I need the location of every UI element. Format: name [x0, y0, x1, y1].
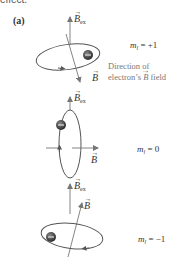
ml-label-minus-1: ml = −1: [138, 234, 165, 245]
annotation-line-2: electron’s B field: [108, 72, 167, 82]
state-ml-0: Bex → B → ml = 0: [46, 87, 160, 178]
svg-text:→: →: [75, 87, 82, 95]
orbit-direction-arrow: [84, 248, 89, 249]
panel-label: (a): [13, 15, 25, 27]
ml-label-plus-1: ml = +1: [130, 40, 157, 51]
ml-label-0: ml = 0: [137, 144, 160, 155]
b-arrow: [66, 34, 80, 82]
svg-text:→: →: [75, 175, 82, 183]
vector-arrow-icon: →: [75, 8, 82, 16]
svg-text:→: →: [93, 67, 100, 75]
state-ml-minus-1: Bex → B → ml = −1: [40, 175, 166, 257]
svg-text:→: →: [92, 149, 99, 157]
svg-text:→: →: [141, 65, 150, 75]
orbital-magnetic-moment-diagram: (a) Bex → B → ml = +1 Direction of elect…: [0, 0, 181, 260]
state-ml-plus-1: Bex → B → ml = +1 Direction of electron’…: [35, 8, 167, 83]
orbit-direction-arrow: [58, 68, 63, 69]
svg-text:→: →: [85, 195, 92, 203]
